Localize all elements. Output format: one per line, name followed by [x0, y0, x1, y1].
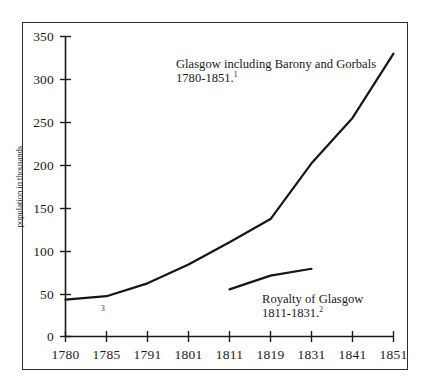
annotation-glasgow-line2: 1780-1851. [176, 71, 234, 85]
series-line-royalty [230, 269, 312, 290]
y-tick-label-50: 50 [20, 288, 54, 302]
annotation-glasgow-footnote: 1 [234, 70, 238, 79]
annotation-royalty-line2: 1811-1831. [262, 306, 319, 320]
x-tick-label-1801: 1801 [166, 348, 212, 362]
y-tick-label-250: 250 [20, 116, 54, 130]
y-tick-label-350: 350 [20, 30, 54, 44]
annotation-glasgow: Glasgow including Barony and Gorbals 178… [176, 57, 376, 85]
y-tick-label-0: 0 [20, 330, 54, 344]
y-tick-label-300: 300 [20, 73, 54, 87]
y-axis-title: population in thousands [15, 137, 24, 237]
x-tick-label-1831: 1831 [289, 348, 335, 362]
x-tick-label-1811: 1811 [207, 348, 253, 362]
x-tick-label-1780: 1780 [43, 348, 89, 362]
y-tick-label-100: 100 [20, 245, 54, 259]
series-line-glasgow [66, 54, 394, 300]
inline-footnote-marker: 3 [101, 305, 105, 313]
annotation-royalty-line1: Royalty of Glasgow [262, 292, 363, 306]
y-tick-label-150: 150 [20, 202, 54, 216]
y-tick-label-200: 200 [20, 159, 54, 173]
x-tick-label-1785: 1785 [84, 348, 130, 362]
x-tick-label-1841: 1841 [330, 348, 376, 362]
x-tick-label-1819: 1819 [248, 348, 294, 362]
figure-container: 350 300 250 200 150 100 50 0 1780 1785 1… [0, 0, 426, 383]
annotation-glasgow-line1: Glasgow including Barony and Gorbals [176, 57, 376, 71]
x-tick-label-1851: 1851 [371, 348, 417, 362]
x-tick-label-1791: 1791 [125, 348, 171, 362]
annotation-royalty-footnote: 2 [319, 305, 323, 314]
annotation-royalty: Royalty of Glasgow 1811-1831.2 [262, 292, 363, 320]
